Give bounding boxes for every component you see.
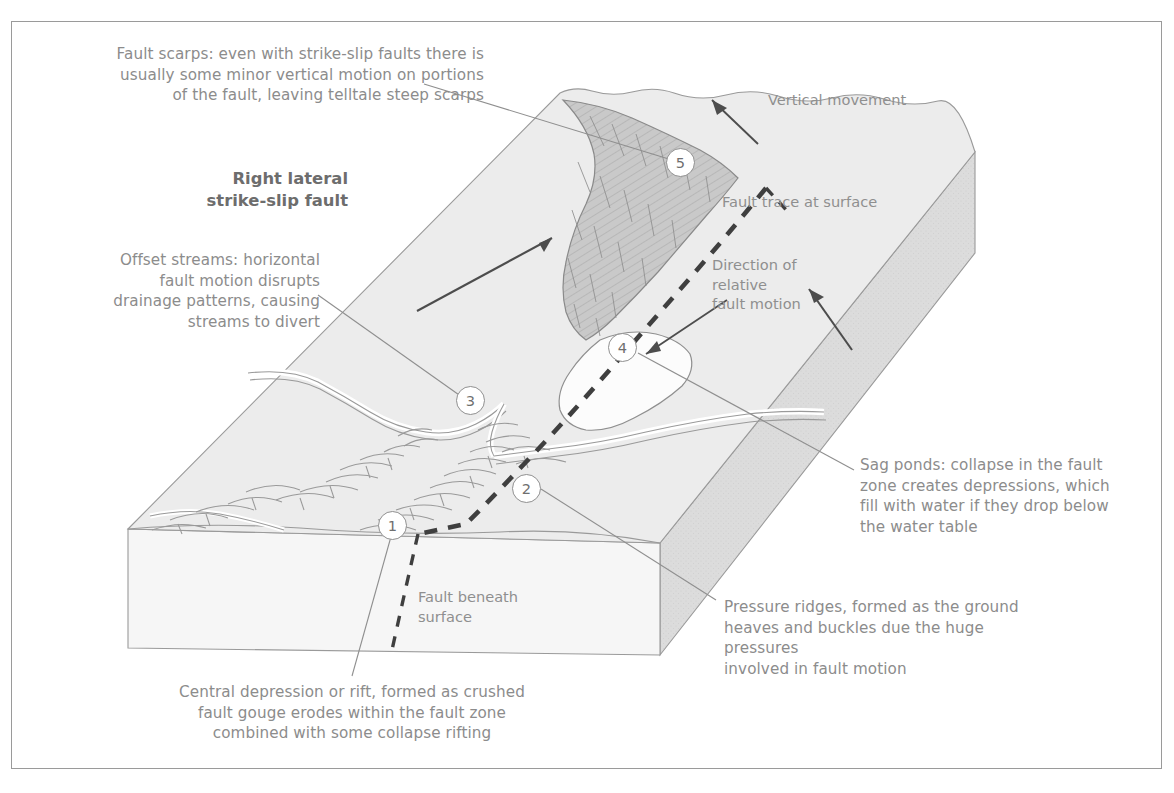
annotation-central-depression: Central depression or rift, formed as cr…	[130, 682, 574, 744]
marker-1: 1	[378, 511, 407, 540]
annotation-fault-scarps: Fault scarps: even with strike-slip faul…	[66, 44, 484, 106]
annotation-pressure-ridges: Pressure ridges, formed as the ground he…	[724, 597, 1054, 679]
annotation-offset-streams: Offset streams: horizontal fault motion …	[28, 250, 320, 332]
label-fault-trace-at-surface: Fault trace at surface	[722, 192, 942, 212]
label-vertical-movement: Vertical movement	[768, 90, 968, 110]
page-title: Right lateral strike-slip fault	[163, 168, 348, 212]
annotation-sag-ponds: Sag ponds: collapse in the fault zone cr…	[860, 455, 1160, 537]
marker-4: 4	[608, 333, 637, 362]
figure-canvas: Right lateral strike-slip fault Fault sc…	[0, 0, 1174, 793]
marker-2: 2	[512, 474, 541, 503]
label-fault-beneath-surface: Fault beneath surface	[418, 587, 558, 626]
marker-3: 3	[456, 386, 485, 415]
marker-5: 5	[666, 148, 695, 177]
label-relative-fault-motion: Direction of relative fault motion	[712, 255, 862, 314]
